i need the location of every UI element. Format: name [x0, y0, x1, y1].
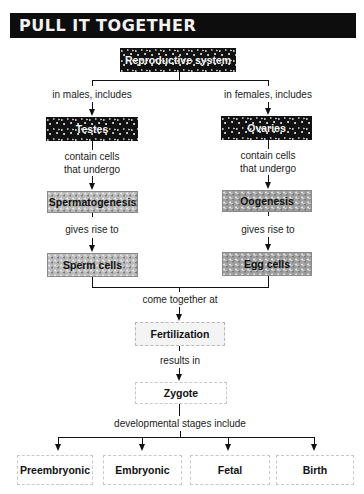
- connector-line: [179, 346, 180, 351]
- node-label: Sperm cells: [63, 259, 122, 271]
- node-fertilization: Fertilization: [135, 322, 225, 346]
- arrow-down-icon: [89, 183, 95, 190]
- node-label: Zygote: [164, 387, 198, 399]
- node-label: Spermatogenesis: [49, 196, 137, 208]
- connector-line: [268, 140, 269, 149]
- edge-label-gives-rise: gives rise to: [218, 224, 318, 237]
- diagram-title: PULL IT TOGETHER: [19, 16, 196, 35]
- node-label: Oogenesis: [240, 195, 294, 207]
- node-zygote: Zygote: [135, 382, 227, 404]
- stage-label: Fetal: [218, 464, 243, 476]
- edge-label-females: in females, includes: [203, 89, 333, 102]
- connector-line: [92, 277, 93, 287]
- connector-line: [179, 287, 180, 292]
- arrow-down-icon: [265, 244, 271, 251]
- connector-line: [268, 276, 269, 287]
- arrow-down-icon: [139, 444, 145, 451]
- connector-line: [58, 437, 315, 438]
- node-ovaries: Ovaries: [221, 116, 312, 140]
- node-label: Egg cells: [244, 258, 290, 270]
- arrow-down-icon: [265, 108, 271, 115]
- connector-line: [179, 404, 180, 416]
- stage-embryonic: Embryonic: [103, 455, 182, 485]
- node-oogenesis: Oogenesis: [222, 190, 312, 212]
- node-reproductive-system: Reproductive system: [120, 48, 236, 72]
- edge-label-contain-cells: contain cells that undergo: [218, 150, 318, 175]
- node-spermatogenesis: Spermatogenesis: [47, 191, 138, 213]
- arrow-down-icon: [176, 374, 182, 381]
- node-label: Ovaries: [247, 122, 286, 134]
- stage-preembryonic: Preembryonic: [17, 455, 93, 485]
- connector-line: [92, 213, 93, 217]
- stage-label: Birth: [303, 464, 328, 476]
- arrow-down-icon: [176, 314, 182, 321]
- stage-label: Embryonic: [115, 464, 169, 476]
- arrow-down-icon: [89, 245, 95, 252]
- stage-label: Preembryonic: [20, 464, 90, 476]
- connector-line: [92, 80, 93, 86]
- arrow-down-icon: [265, 182, 271, 189]
- edge-label-stages: developmental stages include: [90, 418, 270, 431]
- title-bar: PULL IT TOGETHER: [10, 13, 356, 38]
- arrow-down-icon: [55, 444, 61, 451]
- connector-line: [268, 80, 269, 86]
- node-sperm-cells: Sperm cells: [47, 253, 138, 277]
- connector-line: [179, 72, 180, 80]
- edge-label-males: in males, includes: [32, 89, 152, 102]
- edge-label-contain-cells: contain cells that undergo: [42, 151, 142, 176]
- connector-line: [92, 80, 269, 81]
- node-egg-cells: Egg cells: [222, 252, 312, 276]
- edge-label-come-together: come together at: [120, 294, 240, 307]
- connector-line: [92, 141, 93, 150]
- node-label: Reproductive system: [125, 54, 231, 66]
- arrow-down-icon: [225, 444, 231, 451]
- node-testes: Testes: [46, 117, 138, 141]
- connector-line: [268, 212, 269, 216]
- stage-fetal: Fetal: [190, 455, 270, 485]
- arrow-down-icon: [311, 444, 317, 451]
- arrow-down-icon: [89, 109, 95, 116]
- connector-line: [92, 287, 269, 288]
- node-label: Testes: [76, 123, 109, 135]
- edge-label-results-in: results in: [130, 355, 230, 368]
- node-label: Fertilization: [151, 328, 210, 340]
- edge-label-gives-rise: gives rise to: [42, 224, 142, 237]
- stage-birth: Birth: [276, 455, 354, 485]
